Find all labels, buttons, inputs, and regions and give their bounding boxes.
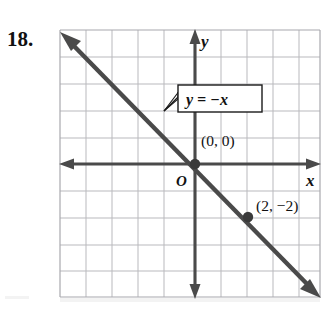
point-2-neg2-marker [243, 212, 253, 222]
label-axis-y: y [199, 32, 209, 51]
label-point-2-neg2: (2, −2) [256, 197, 298, 215]
label-origin-o: O [176, 173, 187, 189]
label-point-origin: (0, 0) [201, 132, 235, 150]
label-axis-x: x [305, 171, 315, 190]
figure-canvas: 18. [0, 0, 335, 316]
equation-label: y = −x [184, 91, 228, 109]
point-origin-marker [190, 159, 200, 169]
coordinate-graph: y = −x (0, 0) (2, −2) O y x [0, 0, 335, 316]
